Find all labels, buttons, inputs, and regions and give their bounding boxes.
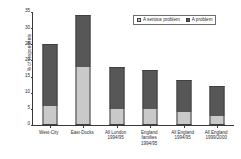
legend-label: A problem — [192, 18, 213, 23]
legend-item[interactable]: A problem — [186, 18, 213, 23]
y-tick-label: 35 — [19, 9, 30, 14]
y-tick-mark — [31, 125, 34, 126]
bar-segment-a-serious-problem[interactable] — [176, 112, 191, 125]
y-tick-label: 25 — [19, 42, 30, 47]
x-tick-mark — [83, 125, 84, 128]
y-tick-label: 20 — [19, 58, 30, 63]
bar-segment-a-problem[interactable] — [42, 44, 57, 105]
bar-segment-a-problem[interactable] — [210, 86, 225, 116]
x-axis-label: East-Docks — [63, 130, 101, 135]
x-axis-label: West-City — [30, 130, 68, 135]
bar-group — [167, 12, 201, 125]
bar-chart: % of respondents 05101520253035 West-Cit… — [0, 0, 241, 159]
x-tick-mark — [150, 125, 151, 128]
bar-group — [134, 12, 168, 125]
bar-stack[interactable] — [210, 86, 225, 125]
y-tick-label: 10 — [19, 90, 30, 95]
legend-label: A serious problem — [143, 18, 180, 23]
bar-group — [67, 12, 101, 125]
y-tick-label: 30 — [19, 26, 30, 31]
plot-area: % of respondents 05101520253035 — [32, 12, 234, 126]
x-axis-label: All London1994/95 — [97, 130, 135, 141]
x-axis-label-line: West-City — [30, 130, 68, 135]
x-axis-label-line: 1994/95 — [97, 135, 135, 140]
x-axis-label: All England1994/95 — [164, 130, 202, 141]
bar-group — [33, 12, 67, 125]
bar-segment-a-serious-problem[interactable] — [42, 106, 57, 125]
y-tick-label: 0 — [19, 122, 30, 127]
bar-segment-a-serious-problem[interactable] — [109, 109, 124, 125]
x-axis-label-line: 1999/2000 — [197, 135, 235, 140]
bar-stack[interactable] — [176, 80, 191, 125]
bar-group — [100, 12, 134, 125]
y-tick-label: 5 — [19, 106, 30, 111]
x-axis-label-line: 1994/95 — [130, 141, 168, 146]
bar-segment-a-serious-problem[interactable] — [143, 109, 158, 125]
x-axis-labels: West-CityEast-DocksAll London1994/95Engl… — [32, 130, 233, 159]
x-tick-mark — [117, 125, 118, 128]
x-axis-label: All England1999/2000 — [197, 130, 235, 141]
bar-stack[interactable] — [76, 15, 91, 125]
legend-swatch-icon — [186, 18, 190, 22]
bar-segment-a-problem[interactable] — [143, 70, 158, 109]
y-tick-label: 15 — [19, 74, 30, 79]
x-axis-label-line: East-Docks — [63, 130, 101, 135]
bar-stack[interactable] — [109, 67, 124, 125]
bar-segment-a-serious-problem[interactable] — [210, 116, 225, 125]
chart-legend: A serious problemA problem — [133, 15, 216, 25]
x-axis-label: Englandfamilies1994/95 — [130, 130, 168, 146]
x-tick-mark — [50, 125, 51, 128]
bar-stack[interactable] — [42, 44, 57, 125]
x-tick-mark — [217, 125, 218, 128]
x-tick-mark — [184, 125, 185, 128]
bar-group — [201, 12, 235, 125]
legend-swatch-icon — [137, 18, 141, 22]
bar-stack[interactable] — [143, 70, 158, 125]
bars-container — [33, 12, 234, 125]
bar-segment-a-problem[interactable] — [176, 80, 191, 112]
legend-item[interactable]: A serious problem — [137, 18, 180, 23]
x-axis-label-line: 1994/95 — [164, 135, 202, 140]
bar-segment-a-problem[interactable] — [76, 15, 91, 67]
bar-segment-a-problem[interactable] — [109, 67, 124, 109]
bar-segment-a-serious-problem[interactable] — [76, 67, 91, 125]
